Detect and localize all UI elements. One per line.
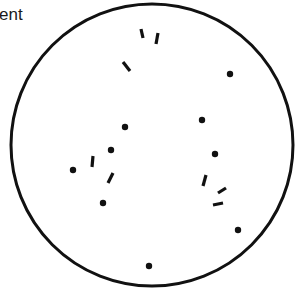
dot-marker xyxy=(227,71,233,77)
dot-marker xyxy=(70,167,76,173)
dash-marker xyxy=(218,188,226,193)
dash-marker xyxy=(108,173,113,183)
dot-marker xyxy=(212,151,218,157)
dot-marker xyxy=(122,124,128,130)
dot-marker xyxy=(146,263,152,269)
dot-marker xyxy=(235,227,241,233)
dash-marker xyxy=(141,29,143,38)
dot-marker xyxy=(199,117,205,123)
petri-dish-circle xyxy=(11,4,293,286)
dash-marker xyxy=(123,62,130,71)
dish-diagram xyxy=(0,0,296,291)
dot-marker xyxy=(108,147,114,153)
dash-marker xyxy=(203,175,206,186)
dot-marker xyxy=(100,200,106,206)
dash-marker xyxy=(92,156,93,167)
dash-markers xyxy=(92,29,226,205)
dash-marker xyxy=(156,33,158,44)
dash-marker xyxy=(213,203,223,205)
dot-markers xyxy=(70,71,241,269)
